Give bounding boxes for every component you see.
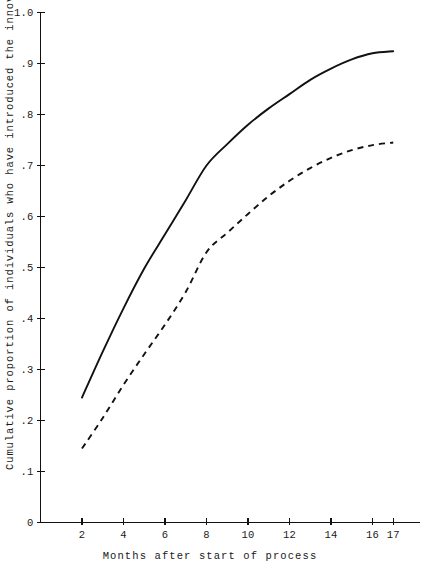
x-tick-label-2: 2 xyxy=(79,529,86,541)
axes-group xyxy=(41,13,421,523)
y-tick-label-.1: .1 xyxy=(20,466,33,478)
y-tick-label-.5: .5 xyxy=(20,262,33,274)
x-tick-label-8: 8 xyxy=(203,529,210,541)
x-axis-tick-labels: 24681012141617 xyxy=(79,529,400,541)
x-tick-label-12: 12 xyxy=(283,529,296,541)
x-axis-title: Months after start of process xyxy=(103,550,318,562)
y-tick-label-1.0: 1.0 xyxy=(14,7,34,19)
y-tick-label-.6: .6 xyxy=(20,211,33,223)
y-tick-label-.3: .3 xyxy=(20,364,33,376)
chart-figure: Cumulative proportion of individuals who… xyxy=(0,0,436,566)
x-tick-label-10: 10 xyxy=(241,529,254,541)
x-tick-label-6: 6 xyxy=(162,529,169,541)
y-tick-label-.9: .9 xyxy=(20,58,33,70)
data-curves xyxy=(82,51,393,448)
x-tick-label-14: 14 xyxy=(324,529,337,541)
y-tick-label-0: 0 xyxy=(27,517,34,529)
y-tick-label-.7: .7 xyxy=(20,160,33,172)
x-tick-label-17: 17 xyxy=(387,529,400,541)
curve-solid-curve xyxy=(82,51,393,397)
x-axis-ticks xyxy=(82,518,393,525)
x-tick-label-16: 16 xyxy=(366,529,379,541)
y-axis-tick-labels: 0.1.2.3.4.5.6.7.8.91.0 xyxy=(14,7,34,529)
y-tick-label-.2: .2 xyxy=(20,415,33,427)
plot-area: 0.1.2.3.4.5.6.7.8.91.0 24681012141617 Mo… xyxy=(0,0,436,566)
y-tick-label-.8: .8 xyxy=(20,109,33,121)
curve-dashed-curve xyxy=(82,143,393,449)
y-tick-label-.4: .4 xyxy=(20,313,33,325)
x-tick-label-4: 4 xyxy=(120,529,127,541)
